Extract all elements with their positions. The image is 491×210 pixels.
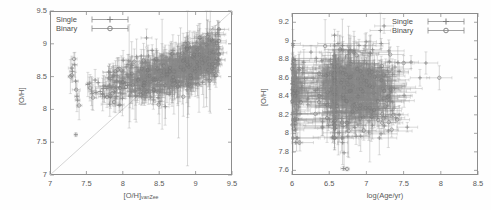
data-point-circle — [292, 108, 313, 138]
x-axis-title-right-main: log(Age/yr) — [367, 191, 404, 200]
data-point-cross — [340, 137, 348, 169]
data-point-cross — [332, 29, 338, 41]
legend-entry-binary-right: Binary — [392, 26, 466, 35]
data-point-cross — [414, 52, 438, 74]
data-point-circle — [427, 66, 452, 90]
legend-marker-circle-errorbar-right — [426, 26, 466, 35]
legend-right: Single Binary — [392, 17, 466, 35]
x-tick-label-right-1: 6.5 — [324, 180, 334, 188]
y-tick-label-right-5: 8.6 — [270, 74, 289, 82]
data-point-cross — [324, 125, 359, 151]
y-tick-label-right-3: 8.2 — [270, 111, 289, 119]
x-tick-label-right-0: 6 — [290, 180, 294, 188]
y-tick-label-right-2: 8 — [270, 130, 289, 138]
y-tick-label-right-4: 8.4 — [270, 93, 289, 101]
data-point-cross — [292, 141, 303, 145]
data-point-circle — [385, 122, 398, 137]
x-axis-title-right: log(Age/yr) — [367, 192, 404, 200]
figure-container: 77.588.599.577.588.599.5 [O/H]vanZee [O/… — [0, 0, 491, 210]
x-tick-label-right-5: 8.5 — [473, 180, 483, 188]
data-point-cross — [373, 40, 404, 62]
x-tick-label-right-4: 8 — [439, 180, 443, 188]
legend-label-single-right: Single — [392, 18, 426, 26]
data-point-cross — [373, 39, 389, 49]
legend-marker-cross-errorbar-right — [426, 17, 466, 26]
y-tick-label-right-0: 7.6 — [270, 167, 289, 175]
x-tick-label-right-2: 7 — [364, 180, 368, 188]
y-tick-label-right-6: 8.8 — [270, 56, 289, 64]
data-point-cross — [404, 56, 419, 69]
y-tick-label-right-8: 9.2 — [270, 19, 289, 27]
y-axis-title-right: [O/H] — [260, 88, 268, 106]
data-point-cross — [410, 69, 429, 86]
legend-label-binary-right: Binary — [392, 27, 426, 35]
legend-entry-single-right: Single — [392, 17, 466, 26]
data-point-circle — [345, 167, 350, 171]
y-tick-label-right-7: 9 — [270, 37, 289, 45]
x-tick-label-right-3: 7.5 — [398, 180, 408, 188]
oh-vs-logage-panel: 66.577.588.57.67.888.28.48.68.899.2 log(… — [0, 0, 491, 210]
data-point-cross — [292, 133, 320, 143]
data-point-cross — [313, 132, 352, 143]
y-tick-label-right-1: 7.8 — [270, 148, 289, 156]
